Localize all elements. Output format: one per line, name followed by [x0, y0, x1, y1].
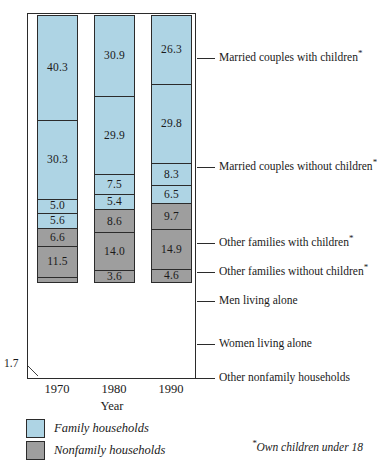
footnote-star-icon: * [349, 233, 354, 243]
footnote: *Own children under 18 [252, 441, 363, 453]
footnote-star-icon: * [373, 157, 377, 167]
legend-label-nonfamily: Nonfamily households [54, 443, 165, 458]
legend: Family households Nonfamily households [26, 417, 165, 461]
x-axis-title: Year [57, 399, 167, 414]
callout-labels: Married couples with children* Married c… [0, 0, 376, 380]
callout-leader-line [197, 243, 215, 244]
legend-swatch-nonfamily-icon [26, 441, 45, 460]
callout-leader-line [197, 378, 215, 379]
footnote-star-icon: * [364, 262, 369, 272]
legend-item-nonfamily[interactable]: Nonfamily households [26, 439, 165, 461]
callout-label: Married couples with children [219, 51, 358, 63]
legend-label-family: Family households [54, 421, 149, 436]
footnote-text: Own children under 18 [257, 441, 364, 453]
legend-swatch-family-icon [26, 419, 45, 438]
callout-leader-line [197, 167, 215, 168]
callout-married-with-children: Married couples with children* [197, 51, 362, 65]
callout-leader-line [197, 272, 215, 273]
callout-leader-line [197, 344, 215, 345]
callout-label: Other families with children [219, 236, 349, 248]
callout-men-living-alone: Men living alone [197, 294, 298, 308]
callout-women-living-alone: Women living alone [197, 337, 312, 351]
footnote-star-icon: * [358, 48, 363, 58]
callout-label: Other families without children [219, 265, 364, 277]
callout-married-without-children: Married couples without children* [197, 160, 377, 174]
x-tick-1980: 1980 [84, 382, 144, 397]
callout-label: Married couples without children [219, 160, 373, 172]
x-tick-1990: 1990 [141, 382, 201, 397]
callout-other-families-with-children: Other families with children* [197, 236, 353, 250]
legend-item-family[interactable]: Family households [26, 417, 165, 439]
callout-leader-line [197, 301, 215, 302]
x-tick-1970: 1970 [27, 382, 87, 397]
callout-label: Other nonfamily households [219, 372, 350, 384]
callout-label: Women living alone [219, 338, 312, 350]
callout-other-families-without-children: Other families without children* [197, 265, 368, 279]
callout-leader-line [197, 58, 215, 59]
callout-other-nonfamily-households: Other nonfamily households [197, 371, 350, 385]
callout-label: Men living alone [219, 295, 298, 307]
